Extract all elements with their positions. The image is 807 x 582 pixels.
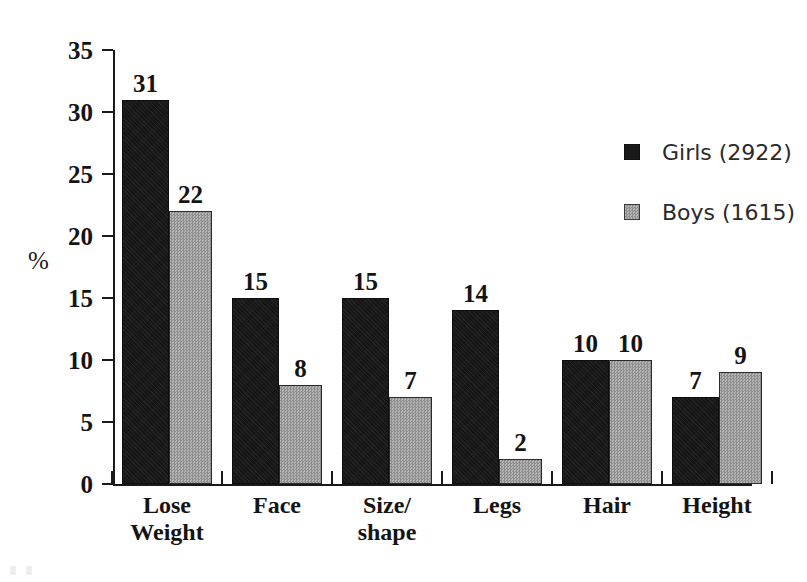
- category-label-line1: Size/: [363, 492, 411, 518]
- y-axis-tick: 30: [102, 111, 113, 113]
- category-label-line1: Height: [682, 492, 751, 518]
- bar-pair: 158: [232, 50, 322, 484]
- bar-pair: 3122: [122, 50, 212, 484]
- bar-girls: 10: [562, 360, 609, 484]
- x-axis-tick: [441, 471, 443, 484]
- bar-value-label: 2: [514, 430, 527, 455]
- category-label-line1: Face: [253, 492, 301, 518]
- x-axis-tick: [551, 471, 553, 484]
- legend-item-boys: Boys (1615): [624, 182, 795, 242]
- y-axis-tick-label: 15: [68, 286, 93, 311]
- bar-value-label: 7: [689, 368, 702, 393]
- legend-label-boys: Boys (1615): [662, 200, 795, 225]
- bar-boys: 8: [279, 385, 322, 484]
- category-label-line1: Lose: [143, 492, 191, 518]
- x-axis-category-label: Size/shape: [342, 492, 432, 546]
- y-axis-tick: 35: [102, 49, 113, 51]
- y-axis-tick: 10: [102, 359, 113, 361]
- y-axis-tick-label: 35: [68, 38, 93, 63]
- y-axis-tick: 20: [102, 235, 113, 237]
- gray-square-swatch-icon: [624, 204, 640, 220]
- x-axis-tick: [331, 471, 333, 484]
- x-axis-category-label: Hair: [562, 492, 652, 519]
- bar-group: 157: [342, 50, 432, 484]
- y-axis-tick: 25: [102, 173, 113, 175]
- bar-value-label: 9: [734, 343, 747, 368]
- bar-value-label: 22: [178, 182, 203, 207]
- bar-girls: 14: [452, 310, 499, 484]
- bar-value-label: 10: [573, 331, 598, 356]
- category-label-line1: Hair: [583, 492, 631, 518]
- y-axis-tick-label: 0: [81, 472, 94, 497]
- bar-value-label: 15: [243, 269, 268, 294]
- y-axis-tick: 15: [102, 297, 113, 299]
- x-axis-category-label: LoseWeight: [122, 492, 212, 546]
- bar-group: 142: [452, 50, 542, 484]
- bar-boys: 7: [389, 397, 432, 484]
- bar-value-label: 31: [133, 71, 158, 96]
- bar-value-label: 8: [294, 356, 307, 381]
- bar-boys: 10: [609, 360, 652, 484]
- y-axis-tick-label: 5: [81, 410, 94, 435]
- bar-boys: 22: [169, 211, 212, 484]
- plot-area: 35302520151050 3122158157142101079 LoseW…: [113, 50, 752, 486]
- x-axis-tick: [111, 471, 113, 484]
- category-label-line2: Weight: [122, 519, 212, 546]
- y-axis-tick-label: 10: [68, 348, 93, 373]
- bar-value-label: 15: [353, 269, 378, 294]
- bar-boys: 9: [719, 372, 762, 484]
- black-square-swatch-icon: [624, 144, 640, 160]
- scan-artifact: [10, 566, 56, 575]
- legend-item-girls: Girls (2922): [624, 122, 795, 182]
- chart-legend: Girls (2922) Boys (1615): [624, 122, 795, 242]
- x-axis-tick: [661, 471, 663, 484]
- bar-pair: 79: [672, 50, 762, 484]
- bar-girls: 31: [122, 100, 169, 484]
- category-label-line2: shape: [342, 519, 432, 546]
- bar-girls: 15: [342, 298, 389, 484]
- x-axis-tick: [221, 471, 223, 484]
- bar-girls: 15: [232, 298, 279, 484]
- bar-value-label: 10: [618, 331, 643, 356]
- bar-group: 1010: [562, 50, 652, 484]
- bar-pair: 1010: [562, 50, 652, 484]
- y-axis-tick-label: 25: [68, 162, 93, 187]
- legend-label-girls: Girls (2922): [662, 140, 792, 165]
- category-label-line1: Legs: [473, 492, 521, 518]
- x-axis-category-label: Face: [232, 492, 322, 519]
- y-axis-title: %: [28, 247, 48, 275]
- bar-group: 158: [232, 50, 322, 484]
- bar-pair: 157: [342, 50, 432, 484]
- x-axis-category-label: Height: [672, 492, 762, 519]
- bar-group: 3122: [122, 50, 212, 484]
- bar-girls: 7: [672, 397, 719, 484]
- x-axis-category-label: Legs: [452, 492, 542, 519]
- bar-value-label: 14: [463, 281, 488, 306]
- y-axis-tick: 5: [102, 421, 113, 423]
- bar-chart-figure: 35302520151050 3122158157142101079 LoseW…: [0, 0, 807, 582]
- bar-pair: 142: [452, 50, 542, 484]
- y-axis-line: [113, 50, 115, 486]
- x-axis-line: [113, 484, 752, 486]
- y-axis-tick-label: 20: [68, 224, 93, 249]
- bar-boys: 2: [499, 459, 542, 484]
- bar-value-label: 7: [404, 368, 417, 393]
- bar-group: 79: [672, 50, 762, 484]
- x-axis-tick: [771, 471, 773, 484]
- y-axis-tick-label: 30: [68, 100, 93, 125]
